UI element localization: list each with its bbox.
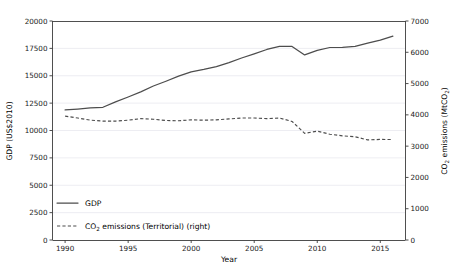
x-axis-title: Year (220, 255, 238, 264)
x-tick-label: 2000 (182, 244, 201, 253)
left-axis-title-text: GDP (US$2010) (5, 101, 14, 160)
right-tick-label: 1000 (411, 204, 430, 213)
left-tick-label: 17500 (25, 44, 48, 53)
chart-figure: 02500500075001000012500150001750020000 0… (0, 0, 456, 273)
left-tick-label: 2500 (29, 208, 48, 217)
chart-svg: 02500500075001000012500150001750020000 0… (0, 0, 456, 273)
left-tick-label: 20000 (25, 17, 48, 26)
right-tick-label: 4000 (411, 110, 430, 119)
left-tick-label: 7500 (29, 153, 48, 162)
legend-label-gdp: GDP (85, 199, 102, 208)
left-axis-title: GDP (US$2010) (5, 101, 14, 160)
right-tick-label: 3000 (411, 142, 430, 151)
right-tick-label: 7000 (411, 17, 430, 26)
legend-label-co2: CO2 emissions (Territorial) (right) (85, 222, 210, 232)
right-tick-label: 5000 (411, 79, 430, 88)
x-tick-label: 2005 (245, 244, 263, 253)
left-tick-label: 15000 (25, 71, 48, 80)
left-tick-label: 10000 (25, 126, 48, 135)
chart-background (0, 0, 456, 273)
right-tick-label: 0 (411, 236, 416, 245)
right-tick-label: 6000 (411, 48, 430, 57)
x-tick-label: 1995 (119, 244, 137, 253)
left-tick-label: 0 (43, 236, 48, 245)
x-tick-label: 2010 (308, 244, 327, 253)
x-tick-label: 2015 (371, 244, 389, 253)
x-tick-label: 1990 (56, 244, 75, 253)
right-tick-label: 2000 (411, 173, 430, 182)
left-tick-label: 5000 (29, 181, 48, 190)
left-tick-label: 12500 (25, 99, 48, 108)
